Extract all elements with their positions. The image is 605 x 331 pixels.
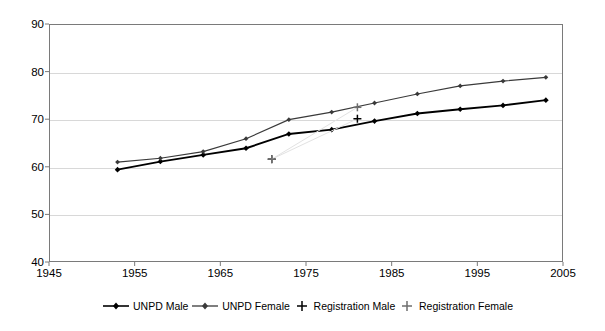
series-line-unpd-female <box>118 77 546 162</box>
data-point-marker <box>268 155 276 163</box>
data-point-marker <box>543 75 548 80</box>
legend-label-unpd-male: UNPD Male <box>133 301 188 312</box>
legend-label-unpd-female: UNPD Female <box>222 301 290 312</box>
legend-item-unpd-female[interactable]: UNPD Female <box>192 300 290 312</box>
series-line-registration-male <box>272 119 358 159</box>
legend-item-unpd-male[interactable]: UNPD Male <box>103 300 188 312</box>
y-axis-tickmarks <box>45 24 49 262</box>
data-point-marker <box>243 145 249 151</box>
data-series-group <box>115 75 549 173</box>
data-point-marker <box>501 79 506 84</box>
chart-legend: UNPD Male UNPD Female Registration Male … <box>103 296 513 316</box>
plus-marker-icon <box>294 300 310 312</box>
legend-item-registration-male[interactable]: Registration Male <box>294 300 396 312</box>
plus-marker-icon <box>399 300 415 312</box>
data-point-marker <box>372 101 377 106</box>
x-axis-tickmarks <box>49 262 563 266</box>
series-layer <box>0 0 605 331</box>
data-point-marker <box>415 111 421 117</box>
legend-label-registration-male: Registration Male <box>314 301 396 312</box>
legend-label-registration-female: Registration Female <box>419 301 513 312</box>
data-point-marker <box>500 103 506 109</box>
data-point-marker <box>244 136 249 141</box>
legend-item-registration-female[interactable]: Registration Female <box>399 300 513 312</box>
life-expectancy-line-chart: 90 80 70 60 50 40 1945 1955 1965 1975 19… <box>0 0 605 331</box>
data-point-marker <box>286 131 292 137</box>
line-diamond-marker-icon <box>103 300 129 312</box>
data-point-marker <box>457 106 463 112</box>
data-point-marker <box>353 115 361 123</box>
data-point-marker <box>115 167 121 173</box>
data-point-marker <box>115 160 120 165</box>
data-point-marker <box>415 92 420 97</box>
data-point-marker <box>543 97 549 103</box>
data-point-marker <box>158 156 163 161</box>
data-point-marker <box>201 149 206 154</box>
data-point-marker <box>353 103 361 111</box>
data-point-marker <box>458 83 463 88</box>
data-point-marker <box>286 117 291 122</box>
data-point-marker <box>372 118 378 124</box>
data-point-marker <box>329 110 334 115</box>
line-diamond-marker-icon <box>192 300 218 312</box>
